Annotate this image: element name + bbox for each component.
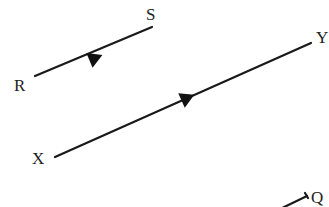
label-q: Q <box>311 188 323 207</box>
segment-q: Q <box>278 188 323 207</box>
direction-arrow-icon <box>178 87 197 107</box>
label-x: X <box>32 149 44 168</box>
diagram-canvas: R S X Y Q <box>0 0 329 207</box>
segment-rs: R S <box>14 5 155 95</box>
label-y: Y <box>316 28 328 47</box>
label-r: R <box>14 76 26 95</box>
segment-xy: X Y <box>32 28 328 168</box>
segment-rs-line <box>35 27 152 76</box>
label-s: S <box>146 5 155 24</box>
segment-q-line <box>278 196 307 207</box>
